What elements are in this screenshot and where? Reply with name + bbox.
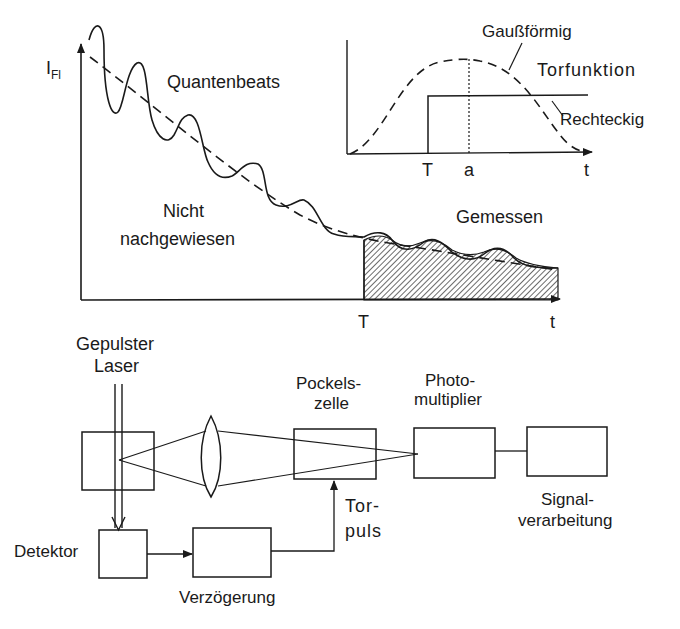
inset-tick-T: T — [422, 160, 433, 180]
figure: IFl Quantenbeats Nicht nachgewiesen Geme… — [0, 0, 680, 629]
main-chart: IFl Quantenbeats Nicht nachgewiesen Geme… — [46, 26, 560, 332]
inset-x-axis-label: t — [584, 160, 589, 180]
ray-lower-1 — [119, 460, 206, 486]
signal-label-line2: verarbeitung — [518, 511, 613, 530]
gate-pulse-label-line2: puls — [345, 521, 382, 541]
rectangular-label: Rechteckig — [560, 110, 644, 129]
sample-cell — [82, 432, 154, 490]
delay-label: Verzögerung — [179, 588, 275, 607]
ray-lower-2 — [218, 454, 418, 486]
gate-pulse-line — [271, 481, 334, 551]
inset-tick-a: a — [464, 160, 475, 180]
signal-label-line1: Signal- — [541, 490, 594, 509]
gate-function-title: Torfunktion — [537, 60, 636, 80]
inset-chart: Gaußförmig Torfunktion Rechteckig T a t — [347, 22, 644, 180]
ray-upper-2 — [218, 431, 418, 454]
x-axis — [81, 299, 560, 300]
photomultiplier-box — [414, 428, 495, 478]
laser-beam-arrowhead — [112, 517, 125, 530]
detector-box — [99, 530, 147, 578]
signal-processing-box — [527, 427, 607, 476]
apparatus-schematic: Gepulster Laser Pockels- zelle Photo- mu… — [14, 334, 613, 607]
ray-upper-1 — [119, 431, 206, 460]
gaussian-label: Gaußförmig — [482, 22, 572, 41]
measured-region — [364, 236, 558, 300]
pmt-label-line2: multiplier — [414, 390, 482, 409]
laser-label-line1: Gepulster — [76, 334, 154, 354]
gate-pulse-label-line1: Tor- — [345, 496, 380, 516]
x-axis-label: t — [550, 312, 555, 332]
detector-label: Detektor — [14, 542, 79, 561]
y-axis-label: IFl — [46, 58, 61, 82]
laser-label-line2: Laser — [94, 356, 139, 376]
delay-box — [193, 528, 271, 577]
pockels-label-line1: Pockels- — [296, 374, 361, 393]
quantum-beats-label: Quantenbeats — [167, 72, 280, 92]
gaussian-leader-line — [509, 43, 522, 70]
measured-label: Gemessen — [456, 207, 543, 227]
not-detected-label-line1: Nicht — [163, 201, 204, 221]
pmt-label-line1: Photo- — [425, 371, 475, 390]
gate-time-tick-label: T — [358, 312, 369, 332]
pockels-label-line2: zelle — [314, 394, 349, 413]
not-detected-label-line2: nachgewiesen — [120, 229, 235, 249]
